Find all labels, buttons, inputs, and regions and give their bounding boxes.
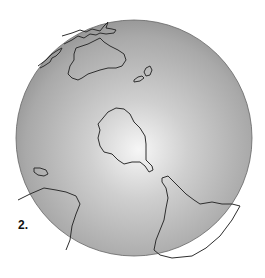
globe-sphere xyxy=(16,20,252,256)
figure-label: 2. xyxy=(18,218,28,232)
globe-svg xyxy=(0,0,265,278)
globe-figure: 2. xyxy=(0,0,265,278)
